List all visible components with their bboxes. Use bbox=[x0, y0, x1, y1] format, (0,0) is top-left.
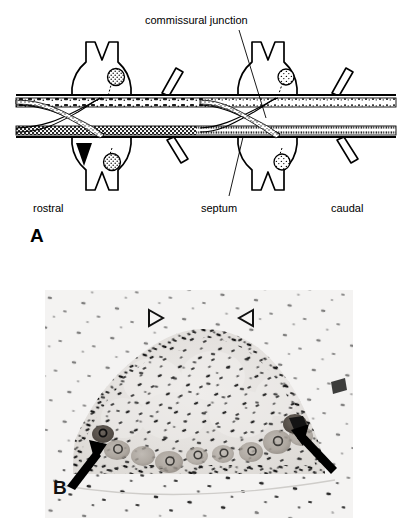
leader-septum bbox=[229, 137, 243, 196]
subganglionic-nuclei bbox=[55, 468, 345, 512]
label-septum: septum bbox=[201, 202, 237, 214]
label-rostral: rostral bbox=[33, 202, 64, 214]
panel-b-photomicrograph: B bbox=[45, 290, 353, 518]
photomicrograph-content bbox=[45, 290, 353, 518]
figure-root: commissural junction septum rostral caud… bbox=[0, 0, 412, 526]
panel-a-letter: A bbox=[30, 226, 44, 245]
panel-a-schematic: commissural junction septum rostral caud… bbox=[0, 0, 412, 268]
label-caudal: caudal bbox=[331, 202, 363, 214]
panel-b-letter: B bbox=[53, 478, 67, 497]
label-commissural-junction: commissural junction bbox=[145, 14, 248, 26]
panel-a-drawing: commissural junction septum rostral caud… bbox=[16, 14, 396, 214]
